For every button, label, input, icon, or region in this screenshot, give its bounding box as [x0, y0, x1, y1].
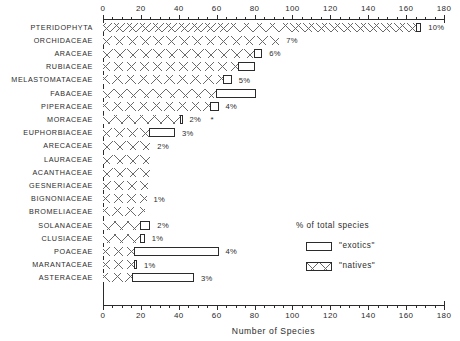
x-tick-minor — [274, 17, 275, 19]
x-tick-minor — [112, 17, 113, 19]
x-tick-major — [368, 15, 369, 19]
x-tick-label-bottom: 40 — [163, 312, 195, 320]
table-row: 10% — [0, 23, 460, 32]
table-row — [0, 207, 460, 216]
percent-label: 3% — [201, 275, 213, 283]
percent-label: 1% — [154, 196, 166, 204]
table-row: 2%* — [0, 115, 460, 124]
bar-segment-natives — [103, 260, 135, 269]
percent-label: 5% — [239, 77, 251, 85]
x-tick-major — [103, 15, 104, 19]
bar-segment-natives — [103, 36, 279, 45]
table-row — [0, 155, 460, 164]
table-row — [0, 168, 460, 177]
x-tick-minor — [416, 306, 417, 308]
x-tick-minor — [245, 17, 246, 19]
x-tick-minor — [131, 306, 132, 308]
x-tick-label-bottom: 80 — [239, 312, 271, 320]
legend-label: "exotics" — [339, 242, 375, 250]
x-tick-label-top: 0 — [87, 5, 119, 13]
x-tick-major — [255, 15, 256, 19]
x-tick-label-top: 180 — [428, 5, 460, 13]
x-tick-minor — [416, 17, 417, 19]
x-tick-minor — [359, 17, 360, 19]
x-tick-minor — [274, 306, 275, 308]
x-tick-minor — [397, 306, 398, 308]
legend-title: % of total species — [296, 222, 369, 230]
x-tick-minor — [349, 17, 350, 19]
x-tick-minor — [264, 17, 265, 19]
x-tick-minor — [112, 306, 113, 308]
x-tick-minor — [207, 17, 208, 19]
table-row: 5% — [0, 75, 460, 84]
x-tick-minor — [321, 306, 322, 308]
x-tick-label-bottom: 20 — [125, 312, 157, 320]
percent-label: 1% — [152, 235, 164, 243]
x-tick-minor — [169, 306, 170, 308]
x-tick-label-top: 40 — [163, 5, 195, 13]
bar-segment-natives — [103, 49, 255, 58]
x-tick-major — [255, 306, 256, 310]
bar-segment-natives — [103, 141, 150, 150]
x-tick-minor — [340, 17, 341, 19]
bar-segment-natives — [103, 75, 224, 84]
x-tick-minor — [169, 17, 170, 19]
x-tick-label-bottom: 60 — [201, 312, 233, 320]
x-tick-minor — [245, 306, 246, 308]
x-tick-major — [292, 306, 293, 310]
x-tick-label-bottom: 100 — [276, 312, 308, 320]
x-tick-minor — [397, 17, 398, 19]
x-tick-minor — [264, 306, 265, 308]
x-tick-label-top: 100 — [276, 5, 308, 13]
x-tick-minor — [378, 17, 379, 19]
table-row — [0, 181, 460, 190]
x-tick-minor — [236, 17, 237, 19]
x-tick-label-bottom: 120 — [314, 312, 346, 320]
x-tick-label-top: 60 — [201, 5, 233, 13]
x-axis-title: Number of Species — [103, 327, 444, 336]
x-tick-minor — [425, 306, 426, 308]
x-tick-major — [444, 15, 445, 19]
table-row: 7% — [0, 36, 460, 45]
percent-label: 1% — [144, 262, 156, 270]
x-tick-minor — [226, 306, 227, 308]
legend-swatch-natives — [306, 262, 332, 271]
x-tick-minor — [122, 306, 123, 308]
x-tick-label-bottom: 0 — [87, 312, 119, 320]
x-tick-minor — [150, 17, 151, 19]
table-row — [0, 62, 460, 71]
bar-segment-natives — [103, 102, 211, 111]
x-tick-label-bottom: 180 — [428, 312, 460, 320]
x-tick-minor — [236, 306, 237, 308]
chart-legend: % of total species"exotics""natives" — [296, 222, 446, 282]
x-tick-minor — [226, 17, 227, 19]
percent-label: 2% — [157, 222, 169, 230]
x-tick-minor — [188, 306, 189, 308]
legend-label: "natives" — [339, 262, 375, 270]
x-tick-major — [217, 306, 218, 310]
x-tick-minor — [207, 306, 208, 308]
bar-segment-natives — [103, 273, 133, 282]
x-tick-major — [141, 15, 142, 19]
x-tick-minor — [150, 306, 151, 308]
x-tick-minor — [435, 17, 436, 19]
table-row: 1% — [0, 194, 460, 203]
table-row: 3% — [0, 128, 460, 137]
x-tick-minor — [321, 17, 322, 19]
table-row — [0, 89, 460, 98]
x-tick-minor — [122, 17, 123, 19]
x-tick-minor — [387, 306, 388, 308]
bar-segment-natives — [103, 207, 145, 216]
x-tick-minor — [435, 306, 436, 308]
x-tick-minor — [188, 17, 189, 19]
x-tick-minor — [283, 306, 284, 308]
x-tick-minor — [198, 17, 199, 19]
x-tick-minor — [131, 17, 132, 19]
x-tick-minor — [160, 17, 161, 19]
x-tick-minor — [198, 306, 199, 308]
legend-item: "natives" — [306, 262, 436, 273]
x-tick-minor — [311, 17, 312, 19]
x-tick-label-top: 120 — [314, 5, 346, 13]
table-row: 2% — [0, 141, 460, 150]
x-tick-major — [330, 306, 331, 310]
